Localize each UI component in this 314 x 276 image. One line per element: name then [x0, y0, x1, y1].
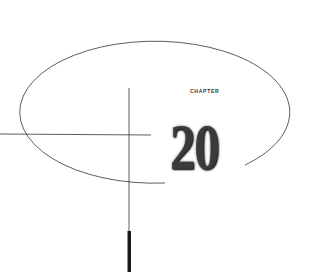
chapter-label: CHAPTER: [190, 88, 219, 94]
ellipse-outline: [20, 41, 290, 183]
chapter-number: 20: [170, 114, 218, 180]
vertical-bar: [128, 231, 132, 272]
chapter-opener-graphic: [0, 0, 314, 276]
horizontal-rule: [0, 134, 151, 135]
